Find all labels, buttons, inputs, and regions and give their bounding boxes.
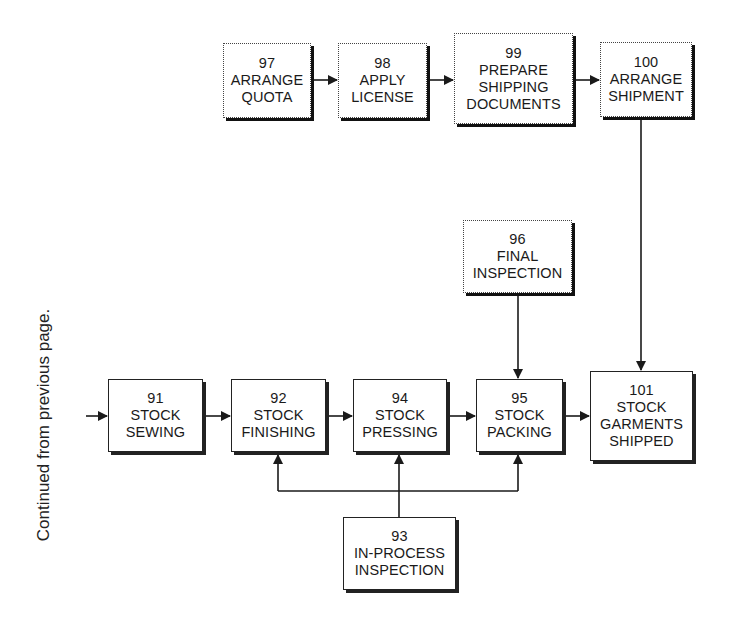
box-label-line: DOCUMENTS [466,96,560,113]
box-label-line: INSPECTION [355,562,445,579]
box-label-line: ARRANGE [231,72,303,89]
box-label-line: FINISHING [241,424,315,441]
box-label-line: IN-PROCESS [354,545,445,562]
box-label-line: SHIPPED [609,433,673,450]
box-number: 93 [391,528,407,545]
box-label-line: PRESSING [362,424,438,441]
box-label-line: STOCK [494,407,544,424]
box-label-line: FINAL [497,248,539,265]
box-label-line: STOCK [375,407,425,424]
box-label-line: LICENSE [351,89,414,106]
process-box-94: 94 STOCK PRESSING [353,379,447,452]
box-number: 101 [629,382,654,399]
process-box-91: 91 STOCK SEWING [108,379,203,452]
process-box-93: 93 IN-PROCESS INSPECTION [343,517,456,590]
box-label-line: STOCK [253,407,303,424]
box-number: 98 [374,55,390,72]
box-label-line: SEWING [126,424,185,441]
box-label-line: STOCK [130,407,180,424]
process-box-96: 96 FINAL INSPECTION [463,220,572,293]
box-number: 100 [634,54,659,71]
process-box-95: 95 STOCK PACKING [476,379,563,452]
box-number: 96 [509,231,525,248]
box-label-line: QUOTA [242,89,293,106]
box-label-line: APPLY [359,72,405,89]
box-number: 91 [147,390,163,407]
process-box-92: 92 STOCK FINISHING [231,379,326,452]
process-box-101: 101 STOCK GARMENTS SHIPPED [590,371,693,461]
box-label-line: GARMENTS [600,416,683,433]
box-label-line: STOCK [616,399,666,416]
continued-note: Continued from previous page. [34,309,54,541]
box-number: 95 [511,390,527,407]
box-label-line: ARRANGE [610,71,682,88]
box-number: 94 [392,390,408,407]
box-label-line: INSPECTION [473,265,563,282]
box-number: 97 [259,55,275,72]
process-box-100: 100 ARRANGE SHIPMENT [600,42,692,117]
process-box-98: 98 APPLY LICENSE [338,43,427,118]
process-box-97: 97 ARRANGE QUOTA [223,43,311,118]
box-label-line: PACKING [487,424,552,441]
box-number: 92 [270,390,286,407]
process-box-99: 99 PREPARE SHIPPING DOCUMENTS [454,33,573,124]
box-label-line: SHIPMENT [608,88,684,105]
box-label-line: SHIPPING [478,79,548,96]
box-label-line: PREPARE [479,62,548,79]
box-number: 99 [505,45,521,62]
